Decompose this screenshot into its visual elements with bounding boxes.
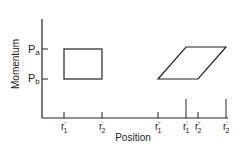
x-axis-label: Position	[115, 132, 151, 143]
x-tick-label: r'2	[223, 121, 230, 134]
y-tick-label-pa: Pa	[28, 43, 40, 57]
phase-space-diagram: Pa Pb Momentum r'1 r'2 r"1 r'1 r"2 r'2 P…	[0, 0, 243, 151]
initial-region-rectangle	[64, 49, 102, 79]
x-tick-label: r'1	[61, 121, 68, 134]
x-tick-label: r"1	[155, 121, 161, 134]
sheared-region-parallelogram	[158, 47, 226, 79]
y-axis-label: Momentum	[10, 39, 21, 89]
x-tick-label: r"2	[195, 121, 201, 134]
y-tick-label-pb: Pb	[28, 72, 40, 86]
x-tick-label: r'1	[183, 121, 190, 134]
x-tick-label: r'2	[99, 121, 106, 134]
